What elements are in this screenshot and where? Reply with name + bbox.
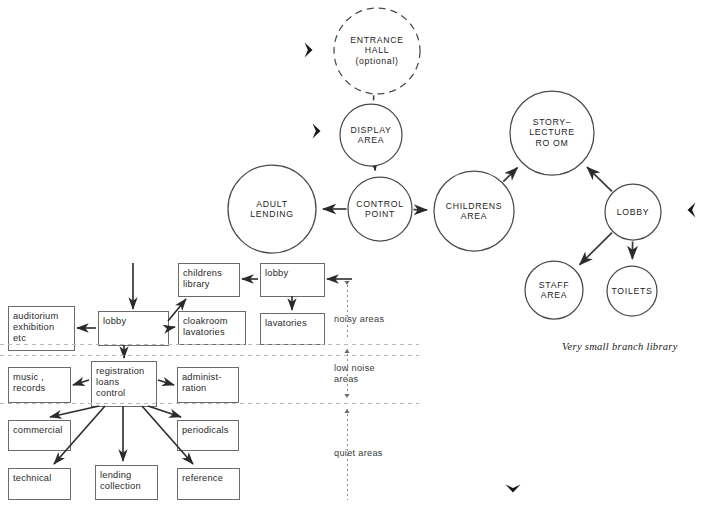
box-flowchart-group	[9, 263, 353, 500]
box-registration[interactable]	[92, 362, 157, 407]
bubble-toilets[interactable]	[607, 266, 657, 316]
diagram-vector-layer	[0, 0, 709, 508]
bubble-lobby-circle[interactable]	[605, 184, 661, 240]
bubble-entrance-hall[interactable]	[334, 8, 420, 94]
flow-registration-to-administration	[158, 380, 174, 385]
box-lavatories[interactable]	[261, 314, 325, 345]
flow-registration-to-commercial	[50, 406, 99, 417]
entry-marker-bottom	[506, 485, 521, 493]
entry-marker-lobby	[688, 203, 696, 218]
box-lobby-box-left[interactable]	[99, 312, 169, 346]
entry-marker-display-area	[313, 124, 321, 139]
zone-axis-arrow-2	[344, 394, 349, 398]
entry-marker-entrance-hall	[305, 43, 313, 58]
box-technical[interactable]	[9, 469, 71, 500]
box-lending-collection[interactable]	[96, 466, 158, 500]
bubble-link-childrens-area-to-story-lecture-room	[503, 168, 517, 182]
box-auditorium[interactable]	[9, 307, 75, 351]
box-administration[interactable]	[178, 368, 239, 403]
box-commercial[interactable]	[9, 421, 71, 451]
bubble-display-area[interactable]	[340, 104, 402, 166]
diagram-canvas: ENTRANCE HALL (optional)DISPLAY AREAADUL…	[0, 0, 709, 508]
zone-axis-arrow-1	[344, 349, 349, 353]
bubble-link-lobby-circle-to-story-lecture-room	[587, 167, 612, 191]
bubble-childrens-area[interactable]	[434, 171, 514, 251]
flow-registration-to-music-records	[73, 380, 89, 385]
box-cloakroom[interactable]	[179, 312, 246, 345]
box-periodicals[interactable]	[178, 421, 239, 451]
zone-axis-arrow-3	[344, 409, 349, 413]
bubble-control-point[interactable]	[348, 177, 412, 241]
bubble-adult-lending[interactable]	[228, 165, 316, 253]
box-childrens-library[interactable]	[179, 264, 240, 297]
zone-axis-arrow-0	[344, 281, 349, 285]
flow-registration-to-periodicals	[148, 406, 181, 417]
box-lobby-box-right[interactable]	[261, 264, 325, 297]
bubble-link-lobby-circle-to-staff-area	[580, 233, 612, 265]
bubble-staff-area[interactable]	[525, 261, 583, 319]
box-reference[interactable]	[178, 469, 240, 500]
flow-lobby-left-to-cloakroom	[170, 327, 175, 328]
box-music-records[interactable]	[9, 368, 71, 403]
bubble-story-lecture-room[interactable]	[510, 91, 594, 175]
